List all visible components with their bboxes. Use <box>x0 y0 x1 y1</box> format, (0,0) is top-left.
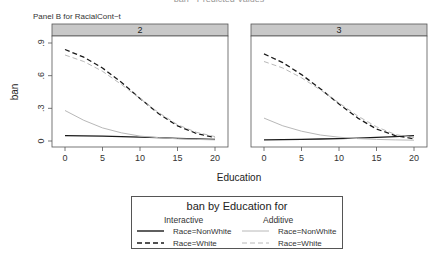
panel-frame <box>52 36 228 147</box>
x-tick-label: 15 <box>172 153 182 163</box>
panel-label: 3 <box>336 25 341 35</box>
x-tick-label: 5 <box>100 153 105 163</box>
x-tick-label: 10 <box>135 153 145 163</box>
x-tick-label: 10 <box>334 153 344 163</box>
panel-frame <box>251 36 427 147</box>
y-tick-label: .3 <box>36 105 46 113</box>
legend-item-interactive-nonwhite: Race=NonWhite <box>173 227 231 236</box>
y-axis-label: ban <box>9 84 20 101</box>
y-tick-label: 0 <box>36 138 46 143</box>
x-axis-label: Education <box>217 172 261 183</box>
panel-label: 2 <box>137 25 142 35</box>
x-tick-label: 20 <box>409 153 419 163</box>
x-tick-label: 0 <box>261 153 266 163</box>
y-tick-label: .6 <box>36 72 46 80</box>
y-tick-label: .9 <box>36 39 46 47</box>
x-tick-label: 20 <box>210 153 220 163</box>
legend-item-additive-nonwhite: Race=NonWhite <box>278 227 336 236</box>
x-tick-label: 15 <box>371 153 381 163</box>
legend-item-additive-white: Race=White <box>278 239 322 248</box>
legend-item-interactive-white: Race=White <box>173 239 217 248</box>
chart-legend: ban by Education for Interactive Additiv… <box>131 196 343 249</box>
x-tick-label: 5 <box>299 153 304 163</box>
x-tick-label: 0 <box>62 153 67 163</box>
